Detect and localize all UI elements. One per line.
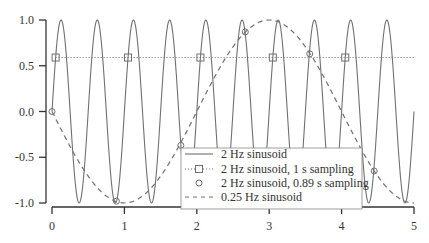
legend-label: 2 Hz sinusoid, 0.89 s sampling bbox=[221, 176, 369, 190]
x-tick-label: 5 bbox=[411, 219, 417, 233]
legend-square-icon bbox=[196, 166, 203, 173]
y-tick-label: 1.0 bbox=[19, 13, 34, 27]
legend-label: 2 Hz sinusoid bbox=[221, 147, 287, 161]
x-tick-label: 4 bbox=[339, 219, 345, 233]
y-tick-label: -0.5 bbox=[15, 150, 34, 164]
legend-label: 2 Hz sinusoid, 1 s sampling bbox=[221, 162, 354, 176]
x-tick-label: 1 bbox=[121, 219, 127, 233]
chart: 1.00.50.0-0.5-1.0012345 2 Hz sinusoid2 H… bbox=[0, 0, 429, 243]
x-tick-label: 3 bbox=[266, 219, 272, 233]
x-tick-label: 2 bbox=[194, 219, 200, 233]
legend: 2 Hz sinusoid2 Hz sinusoid, 1 s sampling… bbox=[181, 147, 369, 209]
y-tick-label: 0.5 bbox=[19, 59, 34, 73]
y-tick-label: -1.0 bbox=[15, 196, 34, 210]
x-tick-label: 0 bbox=[49, 219, 55, 233]
legend-label: 0.25 Hz sinusoid bbox=[221, 190, 302, 204]
y-tick-label: 0.0 bbox=[19, 105, 34, 119]
